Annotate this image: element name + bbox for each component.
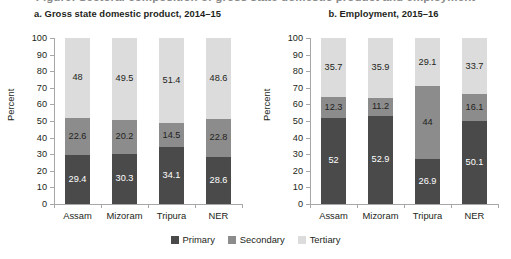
bar-segment-tertiary[interactable]: 48.6 [206, 38, 231, 119]
bar-segment-secondary[interactable]: 14.5 [159, 123, 184, 147]
bar-value-label: 48.6 [210, 74, 228, 83]
bar-segment-primary[interactable]: 28.6 [206, 157, 231, 204]
bar-value-label: 44 [422, 118, 432, 127]
x-axis-category-label: Assam [63, 210, 92, 221]
x-axis-tick [101, 204, 102, 208]
y-axis-tick [306, 38, 310, 39]
bar-segment-tertiary[interactable]: 51.4 [159, 38, 184, 123]
bar-value-label: 29.1 [419, 58, 437, 67]
bar-segment-tertiary[interactable]: 48 [65, 38, 90, 118]
y-axis-tick [306, 187, 310, 188]
bar-value-label: 49.5 [116, 74, 134, 83]
legend-label: Tertiary [310, 234, 341, 245]
bar-value-label: 33.7 [466, 62, 484, 71]
x-axis-tick [451, 204, 452, 208]
y-axis-tick [50, 55, 54, 56]
y-axis-tick [50, 138, 54, 139]
y-axis-title-employment: Percent [261, 89, 272, 121]
y-axis-tick [306, 55, 310, 56]
y-axis-tick-label: 100 [288, 33, 303, 43]
x-axis-category-label: Mizoram [363, 210, 399, 221]
y-axis-tick [50, 38, 54, 39]
y-axis-tick [50, 121, 54, 122]
y-axis-tick-label: 20 [37, 166, 47, 176]
y-axis-tick [306, 71, 310, 72]
bar-value-label: 22.6 [69, 132, 87, 141]
y-axis-tick-label: 20 [293, 166, 303, 176]
legend-swatch-icon [298, 236, 306, 244]
y-axis-tick-label: 0 [298, 199, 303, 209]
bar-segment-secondary[interactable]: 22.6 [65, 118, 90, 156]
y-axis-tick-label: 60 [37, 99, 47, 109]
y-axis-tick [50, 104, 54, 105]
bar-segment-primary[interactable]: 50.1 [462, 121, 487, 204]
bar-value-label: 11.2 [372, 102, 389, 111]
y-axis-tick-label: 70 [37, 83, 47, 93]
x-axis-tick [498, 204, 499, 208]
bar-segment-secondary[interactable]: 12.3 [321, 97, 346, 117]
y-axis-tick [50, 187, 54, 188]
stacked-bar[interactable]: 28.622.848.6 [206, 38, 231, 204]
legend-item-primary[interactable]: Primary [171, 234, 215, 245]
bar-segment-primary[interactable]: 52 [321, 118, 346, 204]
bar-value-label: 29.4 [69, 175, 87, 184]
y-axis-tick [50, 171, 54, 172]
plot-area-employment: 01020304050607080901005212.335.7Assam52.… [310, 38, 498, 204]
bar-segment-secondary[interactable]: 16.1 [462, 94, 487, 121]
bar-segment-primary[interactable]: 34.1 [159, 147, 184, 204]
bar-segment-tertiary[interactable]: 33.7 [462, 38, 487, 94]
x-axis-tick [148, 204, 149, 208]
chart-panel-gsdp: a. Gross state domestic product, 2014–15… [0, 0, 255, 232]
bar-value-label: 52 [328, 156, 338, 165]
legend-label: Secondary [240, 234, 285, 245]
y-axis-tick-label: 100 [32, 33, 47, 43]
x-axis-category-label: Tripura [413, 210, 442, 221]
y-axis-title-gsdp: Percent [5, 89, 16, 121]
y-axis-tick-label: 50 [37, 116, 47, 126]
bar-segment-tertiary[interactable]: 49.5 [112, 38, 137, 120]
stacked-bar[interactable]: 26.94429.1 [415, 38, 440, 204]
bar-value-label: 30.3 [116, 174, 134, 183]
bar-segment-secondary[interactable]: 22.8 [206, 119, 231, 157]
y-axis-tick [306, 104, 310, 105]
y-axis-tick-label: 70 [293, 83, 303, 93]
bar-value-label: 20.2 [116, 132, 134, 141]
y-axis-tick [50, 88, 54, 89]
bar-segment-primary[interactable]: 26.9 [415, 159, 440, 204]
stacked-bar[interactable]: 29.422.648 [65, 38, 90, 204]
y-axis-tick [306, 138, 310, 139]
y-axis-tick-label: 40 [293, 133, 303, 143]
bar-segment-secondary[interactable]: 11.2 [368, 98, 393, 117]
bar-value-label: 50.1 [466, 158, 484, 167]
y-axis-tick [306, 154, 310, 155]
legend-item-tertiary[interactable]: Tertiary [298, 234, 341, 245]
stacked-bar[interactable]: 30.320.249.5 [112, 38, 137, 204]
bar-value-label: 48 [72, 73, 82, 82]
y-axis-tick-label: 10 [37, 182, 47, 192]
y-axis-tick-label: 30 [293, 149, 303, 159]
x-axis-tick [195, 204, 196, 208]
bar-segment-primary[interactable]: 30.3 [112, 154, 137, 204]
bar-segment-tertiary[interactable]: 29.1 [415, 38, 440, 86]
bar-segment-secondary[interactable]: 44 [415, 86, 440, 159]
legend-swatch-icon [228, 236, 236, 244]
bar-value-label: 35.7 [325, 63, 343, 72]
stacked-bar[interactable]: 5212.335.7 [321, 38, 346, 204]
y-axis-line [54, 38, 55, 205]
bar-segment-primary[interactable]: 29.4 [65, 155, 90, 204]
stacked-bar[interactable]: 52.911.235.9 [368, 38, 393, 204]
bar-segment-secondary[interactable]: 20.2 [112, 120, 137, 154]
bar-segment-primary[interactable]: 52.9 [368, 116, 393, 204]
x-axis-category-label: NER [465, 210, 485, 221]
stacked-bar[interactable]: 34.114.551.4 [159, 38, 184, 204]
bar-value-label: 51.4 [163, 76, 181, 85]
legend-item-secondary[interactable]: Secondary [228, 234, 285, 245]
stacked-bar[interactable]: 50.116.133.7 [462, 38, 487, 204]
plot-area-gsdp: 010203040506070809010029.422.648Assam30.… [54, 38, 242, 204]
x-axis-tick [310, 204, 311, 208]
y-axis-tick-label: 80 [293, 66, 303, 76]
bar-segment-tertiary[interactable]: 35.7 [321, 38, 346, 97]
y-axis-tick [306, 121, 310, 122]
x-axis-category-label: Tripura [157, 210, 186, 221]
bar-segment-tertiary[interactable]: 35.9 [368, 38, 393, 98]
